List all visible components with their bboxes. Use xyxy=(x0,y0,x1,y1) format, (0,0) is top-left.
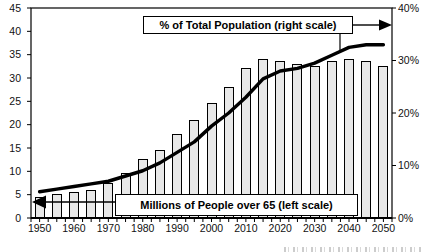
bar-1955 xyxy=(52,195,61,218)
bar-series-callout-box: Millions of People over 65 (left scale) xyxy=(115,194,358,216)
right-axis-label: 10% xyxy=(398,159,419,171)
bar-1970 xyxy=(104,183,113,218)
x-axis-label: 2030 xyxy=(303,222,327,234)
left-axis-label: 45 xyxy=(9,2,21,14)
left-axis-label: 35 xyxy=(9,48,21,60)
bar-1965 xyxy=(87,190,96,218)
x-axis-label: 1950 xyxy=(28,222,52,234)
line-series-callout-label: % of Total Population (right scale) xyxy=(159,19,336,31)
left-axis-label: 15 xyxy=(9,142,21,154)
bar-1960 xyxy=(69,192,78,218)
left-axis-label: 20 xyxy=(9,118,21,130)
left-axis-label: 10 xyxy=(9,165,21,177)
right-axis-label: 20% xyxy=(398,107,419,119)
bar-2045 xyxy=(362,62,371,218)
x-axis-label: 2000 xyxy=(200,222,224,234)
right-axis-label: 0% xyxy=(398,212,413,224)
chart-figure: 0510152025303540450%10%20%30%40%19501960… xyxy=(0,0,422,252)
bar-series-callout-label: Millions of People over 65 (left scale) xyxy=(140,199,333,211)
left-axis-label: 25 xyxy=(9,95,21,107)
x-axis-label: 2020 xyxy=(269,222,293,234)
cropped-caption-artifact xyxy=(284,247,422,252)
x-axis-label: 2050 xyxy=(372,222,396,234)
x-axis-label: 1960 xyxy=(62,222,86,234)
bar-2050 xyxy=(379,66,388,218)
x-axis-label: 2040 xyxy=(337,222,361,234)
right-axis-label: 40% xyxy=(398,2,419,14)
right-axis-label: 30% xyxy=(398,54,419,66)
left-axis-label: 5 xyxy=(15,188,21,200)
x-axis-label: 2010 xyxy=(234,222,258,234)
x-axis-label: 1970 xyxy=(97,222,121,234)
left-axis-label: 30 xyxy=(9,72,21,84)
left-axis-label: 40 xyxy=(9,25,21,37)
right-arrowhead-icon xyxy=(379,20,392,31)
x-axis-label: 1980 xyxy=(131,222,155,234)
left-axis-label: 0 xyxy=(15,212,21,224)
line-series-callout-box: % of Total Population (right scale) xyxy=(143,16,353,34)
x-axis-label: 1990 xyxy=(165,222,189,234)
